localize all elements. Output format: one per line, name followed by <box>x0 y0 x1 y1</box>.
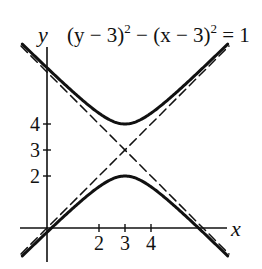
y-tick-label: 2 <box>30 165 40 187</box>
y-tick-label: 3 <box>30 139 40 161</box>
axis-ticks: 234234 <box>30 113 156 254</box>
title-part-b: − (x − 3) <box>131 23 211 47</box>
x-tick-label: 2 <box>94 232 104 254</box>
y-tick-label: 4 <box>30 113 40 135</box>
title-part-a: (y − 3) <box>67 23 124 47</box>
title-part-c: = 1 <box>217 23 250 47</box>
x-tick-label: 4 <box>146 232 156 254</box>
x-tick-label: 3 <box>120 232 130 254</box>
y-axis-label: y <box>36 22 48 47</box>
hyperbola-chart: 234234 y x (y − 3)2 − (x − 3)2 = 1 <box>0 0 262 269</box>
upper-branch-curve <box>22 44 227 124</box>
chart-title: (y − 3)2 − (x − 3)2 = 1 <box>67 21 250 47</box>
x-axis-label: x <box>230 216 241 241</box>
